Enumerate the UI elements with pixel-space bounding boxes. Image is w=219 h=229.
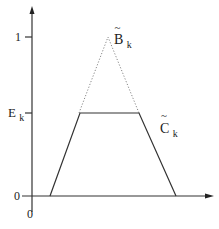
label-b-main: B	[114, 32, 123, 47]
label-b-sub: k	[127, 39, 132, 50]
label-c-k: C k	[160, 121, 178, 139]
curve-c-tilde-k	[50, 113, 176, 196]
y-axis-arrow-icon	[30, 6, 35, 14]
x-axis-arrow-icon	[205, 194, 214, 199]
label-b-k: B k	[114, 32, 132, 50]
label-c-sub: k	[173, 128, 178, 139]
label-ek-sub: k	[19, 112, 24, 123]
diagram-canvas: 1 E k 0 0 ~ B k ~ C k	[0, 0, 219, 229]
label-ek: E k	[8, 105, 24, 123]
label-c-tilde: ~	[161, 109, 167, 121]
label-c-main: C	[160, 121, 169, 136]
label-zero-left: 0	[14, 189, 20, 203]
label-ek-main: E	[8, 105, 16, 120]
label-one: 1	[15, 30, 21, 44]
label-zero-bottom: 0	[27, 207, 33, 221]
